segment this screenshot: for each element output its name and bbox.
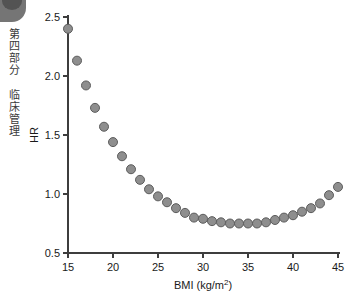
x-tick-label: 30 [197, 261, 209, 273]
y-axis-title: HR [28, 127, 40, 143]
data-point [253, 219, 262, 228]
data-point [145, 185, 154, 194]
x-tick-label: 35 [242, 261, 254, 273]
data-point [100, 122, 109, 131]
data-point [64, 24, 73, 33]
data-point [118, 152, 127, 161]
data-point [154, 192, 163, 201]
y-tick-label: 2.5 [45, 11, 60, 23]
data-point [181, 208, 190, 217]
x-tick-label: 20 [107, 261, 119, 273]
data-series [64, 24, 343, 228]
data-point [271, 215, 280, 224]
x-tick-label: 25 [152, 261, 164, 273]
data-point [136, 175, 145, 184]
x-tick-label: 15 [62, 261, 74, 273]
data-point [235, 219, 244, 228]
y-tick-label: 2.0 [45, 70, 60, 82]
y-tick-label: 1.5 [45, 129, 60, 141]
data-point [307, 204, 316, 213]
data-point [298, 207, 307, 216]
data-point [316, 199, 325, 208]
data-point [280, 213, 289, 222]
x-axis-title: BMI (kg/m2) [174, 278, 232, 291]
x-tick-label: 45 [332, 261, 344, 273]
data-point [262, 218, 271, 227]
data-point [109, 138, 118, 147]
data-point [325, 191, 334, 200]
data-point [226, 219, 235, 228]
data-point [91, 103, 100, 112]
data-point [334, 182, 343, 191]
y-tick-label: 0.5 [45, 247, 60, 259]
data-point [82, 81, 91, 90]
data-point [217, 218, 226, 227]
data-point [163, 198, 172, 207]
data-point [208, 217, 217, 226]
y-tick-label: 1.0 [45, 188, 60, 200]
data-point [127, 165, 136, 174]
data-point [73, 56, 82, 65]
page-canvas: 第四部分 临床管理 0.51.01.52.02.515202530354045B… [0, 0, 355, 291]
data-point [190, 213, 199, 222]
data-point [199, 214, 208, 223]
data-point [244, 219, 253, 228]
scatter-chart: 0.51.01.52.02.515202530354045BMI (kg/m2)… [0, 0, 355, 291]
data-point [172, 204, 181, 213]
data-point [289, 211, 298, 220]
x-tick-label: 40 [287, 261, 299, 273]
